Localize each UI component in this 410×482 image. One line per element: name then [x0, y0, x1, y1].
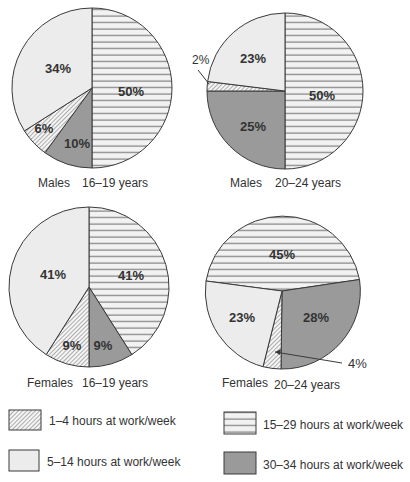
label-2: 2% [192, 53, 210, 67]
label-41: 41% [118, 268, 144, 283]
label-4: 4% [348, 356, 367, 371]
label-45: 45% [269, 247, 295, 262]
caption-age: 20–24 years [274, 378, 340, 392]
legend-label: 1–4 hours at work/week [49, 414, 177, 428]
label-28: 28% [303, 310, 329, 325]
caption-group: Females [27, 376, 73, 390]
legend-label: 30–34 hours at work/week [263, 458, 404, 472]
legend-swatch-dark [224, 452, 256, 474]
legend-swatch-diagonal [9, 410, 41, 430]
caption-group: Males [230, 176, 262, 190]
legend-swatch-light [9, 450, 39, 471]
leader-line [198, 70, 209, 84]
legend-swatch-horizontal [224, 412, 256, 434]
caption-group: Males [38, 176, 70, 190]
pie-chart-figure: 50% 10% 6% 34% Males 16–19 years 50% 25%… [0, 0, 410, 482]
label-23: 23% [240, 51, 266, 66]
label-25: 25% [240, 119, 266, 134]
label-9: 9% [94, 338, 113, 353]
pie-males-20-24: 50% 25% 23% 2% Males 20–24 years [192, 13, 363, 190]
pie-females-16-19: 41% 9% 9% 41% Females 16–19 years [9, 207, 169, 390]
label-23: 23% [229, 310, 255, 325]
label-41b: 41% [40, 267, 66, 282]
legend: 1–4 hours at work/week 15–29 hours at wo… [9, 410, 404, 474]
caption-age: 16–19 years [82, 176, 148, 190]
legend-label: 5–14 hours at work/week [47, 455, 181, 469]
label-50: 50% [118, 84, 144, 99]
label-10: 10% [64, 136, 90, 151]
pie-males-16-19: 50% 10% 6% 34% Males 16–19 years [12, 8, 172, 190]
label-9b: 9% [63, 338, 82, 353]
caption-age: 16–19 years [82, 376, 148, 390]
caption-group: Females [222, 376, 268, 390]
label-34: 34% [45, 61, 71, 76]
caption-age: 20–24 years [275, 176, 341, 190]
pie-females-20-24: 45% 28% 23% 4% Females 20–24 years [205, 216, 367, 392]
label-50: 50% [309, 88, 335, 103]
legend-label: 15–29 hours at work/week [263, 418, 404, 432]
label-6: 6% [35, 121, 54, 136]
